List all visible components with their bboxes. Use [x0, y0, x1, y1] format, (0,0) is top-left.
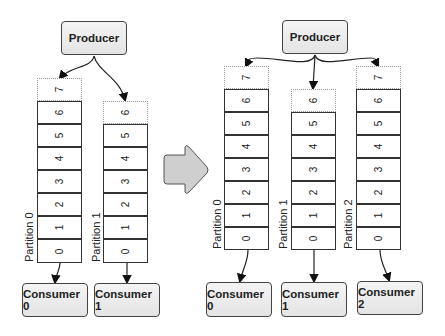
- offset-cell: 1: [224, 204, 269, 227]
- offset-cell: 2: [103, 193, 148, 216]
- producer-to-partition1-arrow-right: [313, 55, 315, 88]
- offset-cell: 1: [356, 204, 401, 227]
- offset-cell: 1: [291, 204, 336, 227]
- offset-cell: 0: [103, 239, 148, 263]
- partition0-to-consumer0-arrow: [55, 263, 60, 282]
- offset-cell: 4: [291, 135, 336, 158]
- partition0-to-consumer0-arrow-right: [240, 250, 248, 281]
- offset-cell: 2: [224, 181, 269, 204]
- consumer-1-box-before: Consumer 1: [94, 283, 160, 317]
- offset-cell: 1: [37, 216, 82, 239]
- offset-cell: 2: [356, 181, 401, 204]
- offset-cell: 2: [291, 181, 336, 204]
- consumer-1-box-after: Consumer 1: [281, 282, 347, 317]
- offset-cell: 0: [224, 227, 269, 250]
- pending-offset-cell: 7: [37, 78, 82, 101]
- pending-offset-cell: 6: [291, 89, 336, 112]
- offset-cell: 3: [291, 158, 336, 181]
- offset-cell: 2: [37, 193, 82, 216]
- offset-cell: 5: [356, 112, 401, 135]
- offset-cell: 6: [224, 89, 269, 112]
- producer-box-before: Producer: [61, 21, 127, 55]
- offset-cell: 5: [224, 112, 269, 135]
- offset-cell: 6: [37, 101, 82, 124]
- producer-box-after: Producer: [282, 20, 348, 54]
- producer-to-partition0-arrow-right: [246, 55, 315, 66]
- partition-label: Partition 1: [90, 212, 102, 262]
- pending-offset-cell: 7: [356, 66, 401, 89]
- partition-label: Partition 2: [342, 199, 354, 249]
- consumer-0-box-after: Consumer 0: [206, 282, 272, 317]
- consumer-0-box-before: Consumer 0: [22, 283, 88, 317]
- offset-cell: 5: [37, 124, 82, 147]
- offset-cell: 3: [356, 158, 401, 181]
- offset-cell: 0: [37, 239, 82, 263]
- offset-cell: 4: [356, 135, 401, 158]
- partition-label: Partition 0: [23, 212, 35, 262]
- offset-cell: 5: [103, 124, 148, 147]
- offset-cell: 0: [291, 227, 336, 250]
- offset-cell: 4: [103, 147, 148, 170]
- offset-cell: 6: [356, 89, 401, 112]
- partition-label: Partition 0: [211, 199, 223, 249]
- offset-cell: 4: [37, 147, 82, 170]
- offset-cell: 3: [224, 158, 269, 181]
- offset-cell: 5: [291, 112, 336, 135]
- pending-offset-cell: 6: [103, 101, 148, 124]
- offset-cell: 0: [356, 227, 401, 250]
- right-arrow-icon: [164, 146, 208, 194]
- consumer-2-box-after: Consumer 2: [357, 281, 423, 315]
- offset-cell: 1: [103, 216, 148, 239]
- partition-label: Partition 1: [277, 199, 289, 249]
- offset-cell: 3: [103, 170, 148, 193]
- producer-to-partition2-arrow-right: [315, 55, 378, 66]
- partition2-to-consumer2-arrow-right: [380, 250, 389, 280]
- offset-cell: 4: [224, 135, 269, 158]
- offset-cell: 3: [37, 170, 82, 193]
- producer-to-partition0-arrow: [60, 56, 94, 78]
- pending-offset-cell: 7: [224, 66, 269, 89]
- producer-to-partition1-arrow: [94, 56, 125, 100]
